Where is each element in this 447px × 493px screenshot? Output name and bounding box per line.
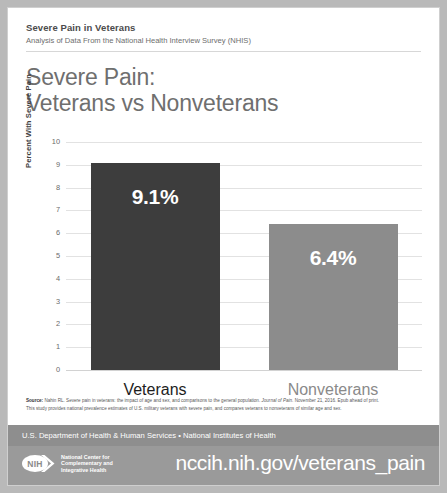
source-journal: Journal of Pain (261, 398, 292, 403)
nih-badge: NIH (22, 455, 56, 472)
grid-line (66, 370, 422, 371)
y-axis-tick-label: 9 (26, 160, 60, 169)
bar-value-label: 6.4% (269, 246, 398, 270)
bar-value-label: 9.1% (91, 185, 220, 209)
nih-logo: NIH National Center for Complementary an… (22, 454, 113, 473)
y-axis-tick-label: 4 (26, 274, 60, 283)
header-divider (26, 51, 421, 52)
source-block: Source: Nahin RL. Severe pain in veteran… (26, 397, 422, 413)
chart-plot-area: 1098765432109.1%Veterans6.4%Nonveterans (66, 142, 422, 370)
page-title: Severe Pain: Veterans vs Nonveterans (26, 64, 278, 116)
nih-center-line-3: Integrative Health (61, 467, 113, 473)
y-axis-tick-label: 5 (26, 251, 60, 260)
source-citation: Source: Nahin RL. Severe pain in veteran… (26, 397, 422, 404)
footer-url[interactable]: nccih.nih.gov/veterans_pain (175, 451, 425, 475)
source-label: Source: (26, 398, 43, 403)
infographic-poster: Severe Pain in Veterans Analysis of Data… (8, 8, 439, 485)
hhs-band-text: U.S. Department of Health & Human Servic… (22, 431, 276, 440)
y-axis-tick-label: 10 (26, 137, 60, 146)
y-axis-tick-label: 8 (26, 183, 60, 192)
hhs-band: U.S. Department of Health & Human Servic… (8, 425, 439, 446)
grid-line (66, 142, 422, 143)
bar-nonveterans: 6.4% (269, 224, 398, 370)
title-line-1: Severe Pain: (26, 64, 278, 90)
y-axis-title: Percent With Severe Pain (24, 46, 33, 196)
y-axis-tick-label: 0 (26, 365, 60, 374)
title-line-2: Veterans vs Nonveterans (26, 90, 278, 116)
nih-center-name: National Center for Complementary and In… (61, 454, 113, 473)
y-axis-tick-label: 7 (26, 205, 60, 214)
chevron-right-icon (40, 455, 56, 472)
source-note: This study provides national prevalence … (26, 405, 422, 412)
bar-veterans: 9.1% (91, 163, 220, 370)
y-axis-tick-label: 2 (26, 319, 60, 328)
poster-header: Severe Pain in Veterans Analysis of Data… (8, 8, 439, 52)
y-axis-tick-label: 6 (26, 228, 60, 237)
header-subkicker: Analysis of Data From the National Healt… (26, 35, 421, 46)
source-citation-text: Nahin RL. Severe pain in veterans: the i… (43, 398, 261, 403)
bar-chart: Percent With Severe Pain 1098765432109.1… (26, 134, 422, 396)
y-axis-tick-label: 1 (26, 342, 60, 351)
poster-footer: NIH National Center for Complementary an… (8, 446, 439, 485)
header-kicker: Severe Pain in Veterans (26, 22, 421, 34)
source-citation-tail: . November 21, 2016. Epub ahead of print… (292, 398, 379, 403)
nih-center-line-2: Complementary and (61, 460, 113, 466)
y-axis-tick-label: 3 (26, 297, 60, 306)
